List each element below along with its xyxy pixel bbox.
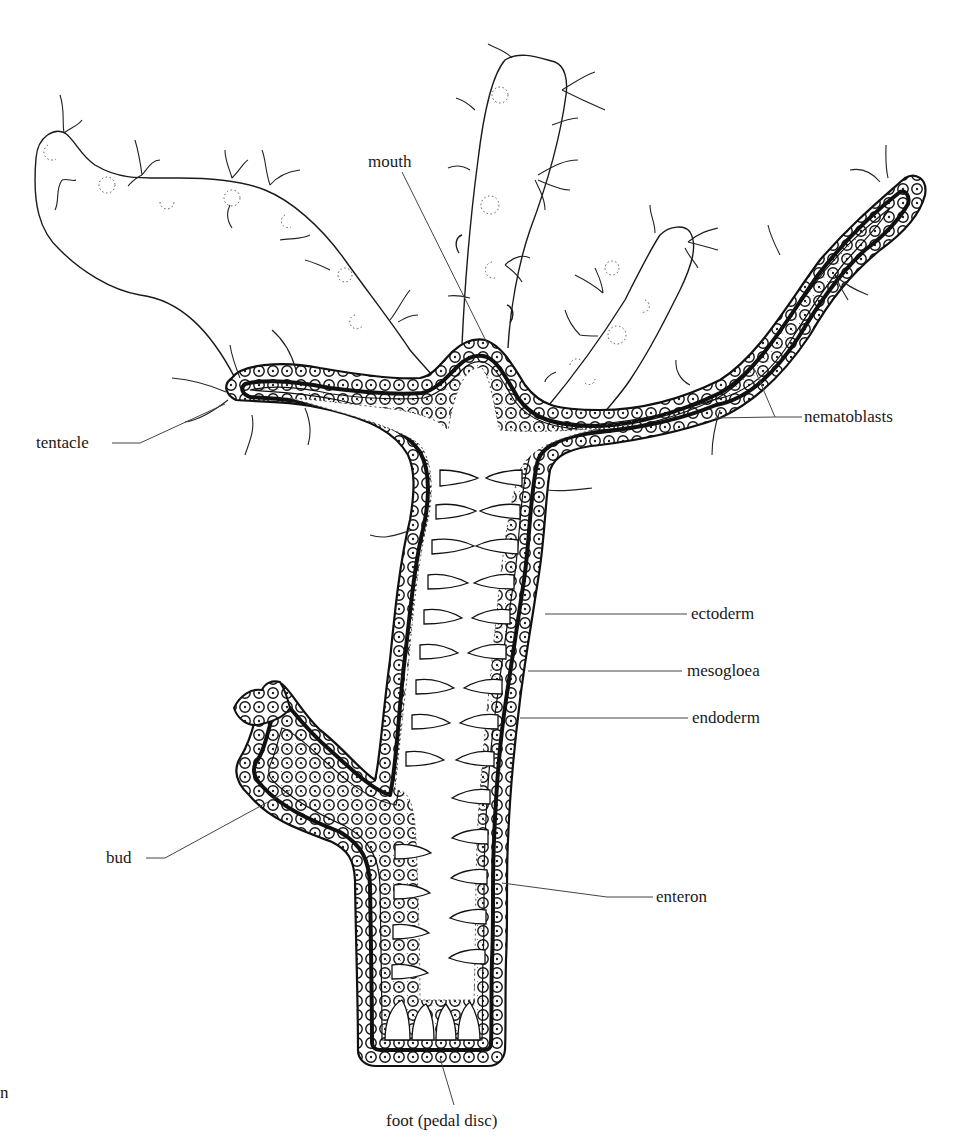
label-ectoderm: ectoderm	[691, 605, 754, 622]
label-mouth: mouth	[368, 153, 411, 170]
hydra-diagram: mouth tentacle nematoblasts ectoderm mes…	[0, 0, 953, 1146]
enteron-leader	[502, 883, 653, 897]
mouth-leader	[402, 172, 488, 345]
left-tentacle-outline	[35, 95, 436, 380]
label-endoderm: endoderm	[692, 709, 760, 726]
ectoderm-layer	[226, 176, 925, 1066]
label-edge-fragment: n	[0, 1084, 9, 1101]
label-mesogloea: mesogloea	[687, 662, 760, 679]
hydra-illustration	[0, 0, 953, 1146]
endoderm-layer	[250, 208, 890, 1040]
mesogloea-layer	[242, 192, 908, 1050]
tentacle-leader	[112, 404, 225, 443]
right-tentacle-outline	[545, 205, 718, 418]
label-tentacle: tentacle	[36, 434, 89, 451]
label-bud: bud	[106, 849, 132, 866]
label-nematoblasts: nematoblasts	[804, 408, 893, 425]
label-enteron: enteron	[656, 888, 707, 905]
center-tentacle-outline	[448, 44, 605, 348]
label-foot-pedal-disc: foot (pedal disc)	[386, 1112, 497, 1129]
nematoblasts-leader	[715, 417, 802, 418]
